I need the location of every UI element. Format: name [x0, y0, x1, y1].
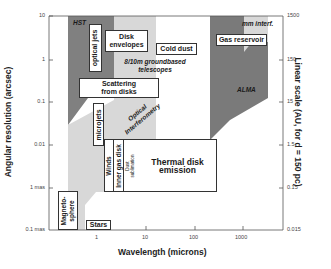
optical-jets-text: optical jets	[92, 30, 100, 67]
chart-canvas	[0, 0, 331, 269]
thermal-disk-box: Winds Inner gas disk Dust sublimation Th…	[104, 139, 217, 192]
y-tick-10: 10	[39, 12, 45, 18]
magneto-line2: sphere	[68, 196, 76, 225]
inner-gas-col: Inner gas disk	[114, 139, 124, 192]
magnetosphere-box: Magneto- sphere	[58, 191, 78, 230]
x-tick-1: 1	[95, 234, 98, 240]
y-tick-1mas: 1 mas	[30, 184, 45, 190]
stars-box: Stars	[86, 220, 111, 230]
y-tick-0.1mas: 0.1 mas	[25, 226, 45, 232]
scattering-line1: Scattering	[102, 80, 136, 88]
gas-reservoir-box: Gas reservoir	[216, 34, 267, 46]
alma-label: ALMA	[237, 86, 256, 93]
inner-gas-text: Inner gas disk	[115, 144, 123, 188]
groundbased-label-line2: telescopes	[110, 66, 200, 74]
groundbased-label-line1: 8/10m groundbased	[110, 58, 200, 66]
y-tick-1: 1	[42, 56, 45, 62]
disk-envelopes-line2: envelopes	[109, 41, 143, 49]
y-tick-0.01: 0.01	[34, 141, 45, 147]
winds-col: Winds	[104, 139, 114, 192]
y-tick-0.1: 0.1	[37, 98, 45, 104]
microjets-text: microjets	[95, 109, 103, 140]
dust-sub-line1: Dust	[125, 154, 130, 177]
scattering-box: Scattering from disks	[79, 78, 159, 98]
disk-envelopes-line1: Disk	[119, 33, 134, 41]
dust-sublimation-col: Dust sublimation	[124, 139, 136, 192]
winds-text: Winds	[105, 156, 113, 175]
y2-axis-title: Linear scale (AU, for d = 150 pc)	[293, 57, 303, 186]
y2-tick-0.015: 0.015	[287, 226, 301, 232]
mm-interf-label: mm interf.	[242, 20, 273, 27]
thermal-disk-text: Thermal disk emission	[139, 158, 216, 174]
x-tick-1000: 1000	[235, 234, 247, 240]
dust-sub-line2: sublimation	[130, 154, 135, 177]
scattering-line2: from disks	[101, 88, 136, 96]
optical-jets-box: optical jets	[89, 24, 102, 72]
x-axis-title: Wavelength (microns)	[118, 247, 206, 257]
cold-dust-box: Cold dust	[156, 43, 197, 55]
disk-envelopes-box: Disk envelopes	[105, 30, 148, 52]
hst-label: HST	[73, 19, 86, 26]
y2-tick-1500: 1500	[287, 12, 299, 18]
microjets-box: microjets	[93, 103, 104, 146]
x-tick-10: 10	[142, 234, 148, 240]
x-tick-100: 100	[189, 234, 198, 240]
groundbased-label: 8/10m groundbased telescopes	[110, 58, 200, 74]
magneto-line1: Magneto-	[60, 196, 68, 225]
y-axis-title: Angular resolution (arcsec)	[3, 67, 13, 178]
